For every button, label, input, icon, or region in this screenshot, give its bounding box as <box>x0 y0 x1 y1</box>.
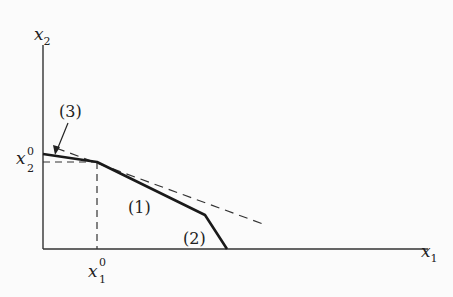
x-axis-label: x1 <box>421 241 438 265</box>
x2-zero-label: x <box>16 148 26 168</box>
segment-label-1: (1) <box>128 198 151 217</box>
x2-zero-sup: 0 <box>27 145 34 158</box>
x1-zero-label: x <box>88 261 98 281</box>
diagram-canvas: x2 x1 x 0 2 x 0 1 (3) (1) (2) <box>0 0 453 297</box>
x1-zero-sub: 1 <box>99 273 106 286</box>
x1-zero-sup: 0 <box>99 256 106 269</box>
y-axis-label: x2 <box>34 24 51 48</box>
segment-label-2: (2) <box>183 229 206 248</box>
segment-label-3: (3) <box>59 102 82 121</box>
arrow-3-shaft <box>57 123 68 150</box>
x2-zero-sub: 2 <box>27 162 34 175</box>
